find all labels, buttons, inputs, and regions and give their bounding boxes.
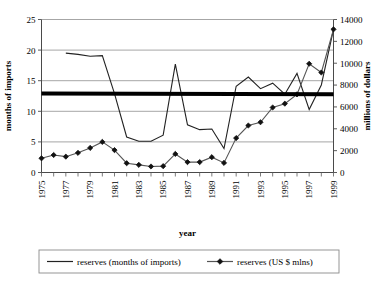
y-axis-right-tick-label: 0	[340, 168, 345, 178]
y-axis-right-tick-label: 2000	[340, 146, 359, 156]
y-axis-right-tick-label: 6000	[340, 102, 359, 112]
x-axis-tick-label: 1995	[280, 180, 290, 199]
x-axis-tick-label: 1979	[85, 180, 95, 199]
chart-legend: reserves (months of imports)reserves (US…	[39, 250, 339, 273]
legend-label-months-of-imports: reserves (months of imports)	[77, 257, 181, 267]
legend-label-us-dollars: reserves (US $ mlns)	[237, 257, 313, 267]
y-axis-left-tick-label: 20	[27, 46, 37, 56]
y-axis-right-tick-label: 12000	[340, 37, 363, 47]
x-axis-tick-label: 1989	[207, 180, 217, 199]
x-axis-tick-label: 1997	[304, 180, 314, 199]
y-axis-right-title: millions of dollars	[362, 61, 372, 131]
x-axis-tick-label: 1981	[110, 181, 120, 199]
x-axis-tick-label: 1987	[183, 180, 193, 199]
y-axis-right-tick-label: 4000	[340, 124, 359, 134]
series-line	[42, 94, 334, 95]
x-axis-tick-label: 1983	[134, 180, 144, 199]
x-axis-tick-label: 1977	[61, 180, 71, 199]
y-axis-left-tick-label: 15	[27, 76, 37, 86]
chart-background	[0, 0, 378, 290]
chart-container: 1975197719791981198319851987198919911993…	[0, 0, 378, 290]
y-axis-left-tick-label: 0	[31, 168, 36, 178]
x-axis-tick-label: 1975	[37, 180, 47, 199]
y-axis-left-tick-label: 10	[27, 107, 37, 117]
x-axis-tick-label: 1991	[231, 181, 241, 199]
x-axis-tick-label: 1999	[329, 180, 339, 199]
y-axis-left-title: months of imports	[3, 60, 13, 131]
y-axis-right-tick-label: 8000	[340, 80, 359, 90]
reserves-line-chart: 1975197719791981198319851987198919911993…	[0, 0, 378, 290]
x-axis-tick-label: 1985	[158, 180, 168, 199]
y-axis-left-tick-label: 25	[27, 15, 37, 25]
y-axis-right-tick-label: 14000	[340, 15, 363, 25]
x-axis-tick-label: 1993	[256, 180, 266, 199]
y-axis-left-tick-label: 5	[31, 137, 36, 147]
y-axis-right-tick-label: 10000	[340, 59, 363, 69]
x-axis-title: year	[179, 228, 196, 238]
